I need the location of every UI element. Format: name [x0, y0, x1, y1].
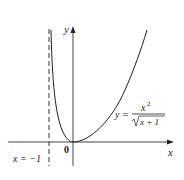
equation-label: y = x 2 x + 1 — [114, 100, 165, 127]
x-axis-arrow-icon — [167, 140, 174, 145]
equation-exponent: 2 — [147, 100, 151, 108]
y-axis — [71, 26, 76, 166]
function-graph: y x 0 x = −1 y = x 2 x + 1 — [0, 0, 184, 180]
equation-numerator: x — [140, 102, 146, 113]
x-axis-label: x — [167, 146, 173, 158]
function-curve — [51, 30, 147, 142]
y-axis-arrow-icon — [71, 26, 76, 33]
equation-denominator: x + 1 — [139, 117, 159, 127]
y-axis-label: y — [63, 23, 69, 35]
x-axis — [8, 140, 174, 145]
asymptote-label: x = −1 — [12, 153, 41, 164]
equation-lhs: y = — [114, 109, 129, 120]
origin-label: 0 — [64, 144, 69, 155]
